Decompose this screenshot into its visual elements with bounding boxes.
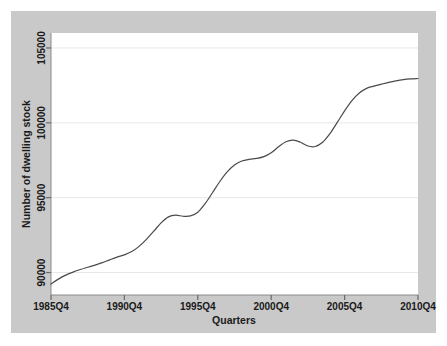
y-axis-ticks-group: 9000095000100000105000 xyxy=(37,31,52,287)
y-axis-tick-label: 95000 xyxy=(37,183,48,211)
x-axis-tick-label: 1985Q4 xyxy=(33,301,69,312)
x-axis-tick-label: 2010Q4 xyxy=(400,301,436,312)
y-axis-tick-label: 100000 xyxy=(37,106,48,140)
plot-area-background xyxy=(51,33,418,295)
x-axis-tick-label: 1995Q4 xyxy=(180,301,216,312)
chart-figure: 9000095000100000105000 1985Q41990Q41995Q… xyxy=(0,0,447,346)
y-axis-tick-label: 105000 xyxy=(37,31,48,65)
y-axis-title: Number of dwelling stock xyxy=(20,100,32,228)
x-axis-tick-label: 2000Q4 xyxy=(253,301,289,312)
x-axis-title: Quarters xyxy=(212,314,256,326)
chart-svg: 9000095000100000105000 1985Q41990Q41995Q… xyxy=(0,0,447,346)
x-axis-ticks-group: 1985Q41990Q41995Q42000Q42005Q42010Q4 xyxy=(33,295,436,312)
x-axis-tick-label: 2005Q4 xyxy=(327,301,363,312)
y-axis-tick-label: 90000 xyxy=(37,258,48,286)
x-axis-tick-label: 1990Q4 xyxy=(107,301,143,312)
